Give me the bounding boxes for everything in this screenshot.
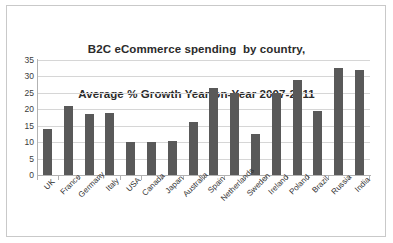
y-axis-tick-labels: 05101520253035 (14, 60, 34, 175)
x-label-slot: Brazil (308, 180, 329, 235)
y-axis-tick-label: 10 (14, 138, 34, 147)
x-label-slot: India (349, 180, 370, 235)
bar-series (37, 60, 370, 175)
bar[interactable] (168, 141, 177, 176)
bar-slot (58, 60, 79, 175)
y-axis-line (37, 59, 38, 176)
bar[interactable] (313, 111, 322, 175)
bar[interactable] (230, 93, 239, 175)
bar-slot (141, 60, 162, 175)
x-label-slot: France (58, 180, 79, 235)
x-label-slot: Italy (99, 180, 120, 235)
bar-slot (204, 60, 225, 175)
bar-slot (183, 60, 204, 175)
bar-slot (79, 60, 100, 175)
x-label-slot: USA (120, 180, 141, 235)
x-label-slot: Ireland (266, 180, 287, 235)
x-label-slot: UK (37, 180, 58, 235)
bar-slot (349, 60, 370, 175)
x-label-slot: Poland (287, 180, 308, 235)
x-axis-tick-label: UK (43, 178, 57, 192)
bar[interactable] (85, 114, 94, 175)
x-label-slot: Australia (183, 180, 204, 235)
bar-slot (245, 60, 266, 175)
plot-area (37, 60, 370, 175)
x-axis-tick-label: Italy (105, 177, 121, 193)
bar[interactable] (272, 93, 281, 175)
y-axis-tick-label: 0 (14, 171, 34, 180)
bar-slot (308, 60, 329, 175)
x-label-slot: Japan (162, 180, 183, 235)
bar-slot (328, 60, 349, 175)
bar[interactable] (147, 142, 156, 175)
bar-slot (287, 60, 308, 175)
bar[interactable] (355, 70, 364, 175)
y-axis-tick-label: 25 (14, 89, 34, 98)
y-axis-tick-label: 35 (14, 56, 34, 65)
x-label-slot: Germany (79, 180, 100, 235)
bar[interactable] (189, 122, 198, 175)
bar-slot (266, 60, 287, 175)
x-label-slot: Russia (328, 180, 349, 235)
chart-container: B2C eCommerce spending by country, Avera… (0, 0, 393, 243)
y-axis-tick-label: 30 (14, 72, 34, 81)
bar-slot (37, 60, 58, 175)
x-axis-tick-labels: UKFranceGermanyItalyUSACanadaJapanAustra… (37, 180, 370, 235)
x-label-slot: Sweden (245, 180, 266, 235)
x-label-slot: Canada (141, 180, 162, 235)
bar-slot (162, 60, 183, 175)
bar[interactable] (293, 80, 302, 175)
bar-slot (224, 60, 245, 175)
y-axis-tick-label: 5 (14, 154, 34, 163)
bar[interactable] (334, 68, 343, 175)
bar-slot (120, 60, 141, 175)
bar-slot (99, 60, 120, 175)
y-axis-tick-label: 20 (14, 105, 34, 114)
y-axis-tick-label: 15 (14, 121, 34, 130)
plot-wrapper: 05101520253035 UKFranceGermanyItalyUSACa… (0, 0, 393, 243)
bar[interactable] (105, 113, 114, 175)
bar[interactable] (43, 129, 52, 175)
x-label-slot: Spain (204, 180, 225, 235)
x-label-slot: Netherlands (224, 180, 245, 235)
bar[interactable] (126, 142, 135, 175)
bar[interactable] (64, 106, 73, 175)
bar[interactable] (209, 88, 218, 175)
